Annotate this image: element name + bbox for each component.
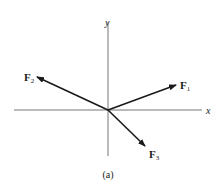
y-axis-label: y: [104, 17, 110, 28]
force-diagram: x y F1 F2 F3 (a): [0, 0, 224, 193]
vector-f3-arrow: [108, 110, 145, 146]
vector-f3-label: F3: [149, 148, 160, 162]
vector-f1-arrow: [108, 85, 176, 110]
vector-f2-label: F2: [24, 71, 35, 85]
vector-f2-arrow: [37, 77, 108, 110]
figure-caption: (a): [102, 169, 113, 181]
vector-f1-label: F1: [180, 79, 191, 93]
x-axis-label: x: [205, 105, 211, 116]
